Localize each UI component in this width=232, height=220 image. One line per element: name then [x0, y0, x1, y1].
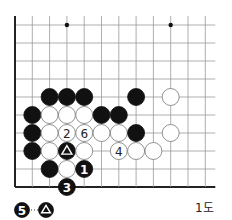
move-number: 5 [18, 204, 26, 218]
move-number: 4 [115, 145, 123, 159]
white-stone [128, 143, 145, 160]
white-stone [41, 125, 58, 142]
diagram-caption: 1도 [195, 198, 214, 215]
black-stone [76, 89, 93, 106]
star-point [65, 23, 69, 27]
black-stone [41, 161, 58, 178]
black-stone-icon [58, 89, 75, 106]
white-stone [110, 125, 127, 142]
black-stone [39, 203, 54, 218]
black-stone [24, 107, 41, 124]
black-stone [24, 143, 41, 160]
go-board-diagram: 26413 5 [0, 0, 232, 220]
move-number: 1 [80, 163, 88, 177]
white-stone: 6 [76, 125, 93, 142]
white-stone-icon [41, 107, 58, 124]
black-stone-icon [24, 143, 41, 160]
white-stone [162, 89, 179, 106]
black-stone [110, 107, 127, 124]
white-stone-icon [162, 125, 179, 142]
white-stone [76, 107, 93, 124]
white-stone [145, 143, 162, 160]
black-stone-icon [128, 125, 145, 142]
black-stone-icon [41, 161, 58, 178]
black-stone-icon [76, 89, 93, 106]
white-stone-icon [110, 125, 127, 142]
white-stone [58, 161, 75, 178]
white-stone-icon [128, 143, 145, 160]
move-number: 3 [63, 181, 71, 195]
black-stone [93, 107, 110, 124]
black-stone [58, 89, 75, 106]
white-stone-icon [41, 143, 58, 160]
white-stone [162, 125, 179, 142]
white-stone [41, 143, 58, 160]
white-stone: 4 [110, 143, 127, 160]
white-stone-icon [93, 125, 110, 142]
white-stone-icon [162, 89, 179, 106]
star-point [169, 23, 173, 27]
move-number: 2 [63, 127, 71, 141]
black-stone-icon [24, 107, 41, 124]
black-stone [24, 125, 41, 142]
white-stone-icon [76, 143, 93, 160]
move-note: 5 [15, 203, 54, 218]
black-stone-icon [93, 107, 110, 124]
black-stone: 5 [15, 203, 30, 218]
black-stone-icon [128, 89, 145, 106]
black-stone [41, 89, 58, 106]
white-stone [41, 107, 58, 124]
black-stone: 3 [58, 179, 75, 196]
white-stone: 2 [58, 125, 75, 142]
black-stone: 1 [76, 161, 93, 178]
white-stone [76, 143, 93, 160]
black-stone-icon [110, 107, 127, 124]
white-stone-icon [145, 143, 162, 160]
move-number: 6 [80, 127, 88, 141]
black-stone [58, 143, 75, 160]
white-stone-icon [58, 107, 75, 124]
black-stone [128, 89, 145, 106]
white-stone-icon [41, 125, 58, 142]
black-stone [128, 125, 145, 142]
white-stone [58, 107, 75, 124]
white-stone-icon [58, 161, 75, 178]
white-stone-icon [76, 107, 93, 124]
black-stone-icon [24, 125, 41, 142]
white-stone [93, 125, 110, 142]
black-stone-icon [41, 89, 58, 106]
